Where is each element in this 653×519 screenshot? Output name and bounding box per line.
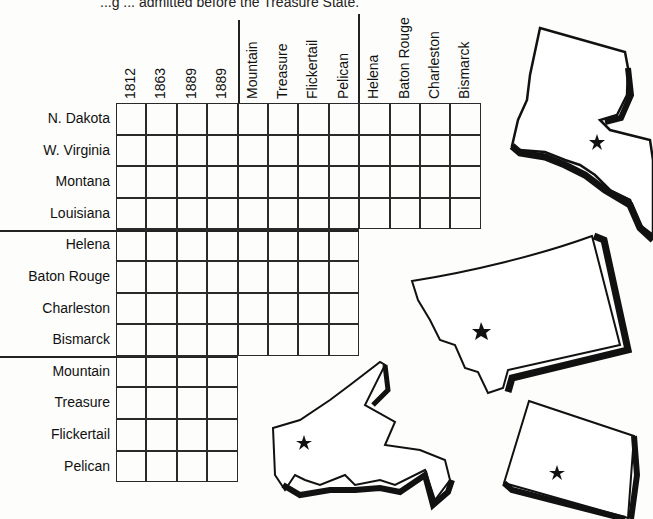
state-illustrations [0,0,653,519]
montana-shape-icon [412,236,628,393]
west-virginia-shape-icon [273,362,452,505]
louisiana-shape-icon [512,28,653,240]
north-dakota-shape-icon [504,401,637,519]
